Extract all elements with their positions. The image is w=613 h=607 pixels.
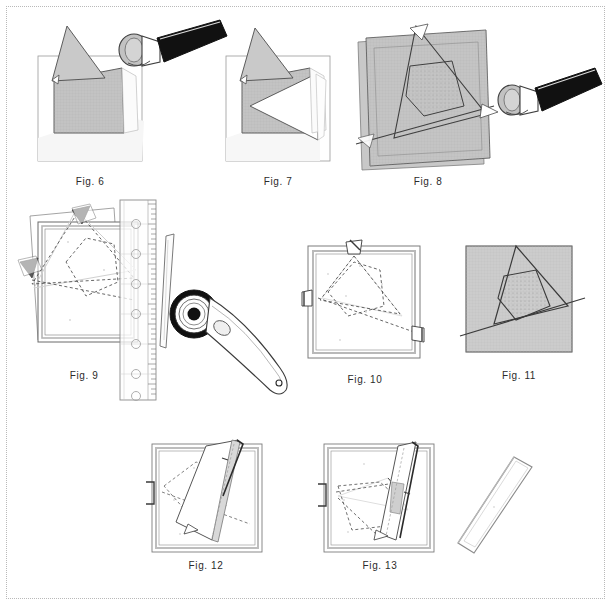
figure-fig-9: Fig. 9 <box>14 200 304 400</box>
fold-edge <box>122 68 138 133</box>
figure-fig-11: Fig. 11 <box>460 240 585 365</box>
figure-fig-13: Fig. 13 <box>312 438 462 556</box>
acrylic-ruler <box>120 200 156 401</box>
mat-dot <box>67 241 69 243</box>
fig-8-illustration <box>352 18 602 173</box>
mat-dot <box>363 463 365 465</box>
figure-page: Fig. 6 Fig. 7 <box>0 0 613 607</box>
fig-12-illustration <box>140 438 290 556</box>
mat-dot <box>173 499 175 501</box>
mat-dot <box>339 339 341 341</box>
handle-hole <box>276 380 282 386</box>
figure-fabric-strip <box>450 445 570 565</box>
cutter-hub <box>125 38 143 62</box>
rotary-cutter <box>119 34 160 66</box>
mat-dot <box>179 533 181 535</box>
cutter-hub <box>504 89 520 111</box>
fig-10-illustration <box>298 240 438 370</box>
fabric-frame <box>308 246 420 358</box>
figure-caption: Fig. 12 <box>158 560 254 571</box>
fig-7-illustration <box>212 28 344 173</box>
figure-fig-12: Fig. 12 <box>140 438 290 556</box>
mat-dot <box>327 273 329 275</box>
triangle-flap <box>240 28 293 81</box>
mat-dot <box>193 467 195 469</box>
figure-fig-8: Fig. 8 <box>352 18 602 173</box>
cutter-handle <box>206 298 287 394</box>
mat-dot <box>493 506 495 508</box>
rotary-cutter <box>498 85 538 115</box>
figure-caption: Fig. 11 <box>476 370 562 381</box>
mat-dot <box>103 269 105 271</box>
mat-dot <box>347 531 349 533</box>
blade-center-hub <box>188 308 201 321</box>
pin-top <box>346 240 362 254</box>
cutter-handle <box>535 68 602 111</box>
triangle-flap <box>52 26 105 81</box>
mat-dot <box>359 265 361 267</box>
cutter-blade <box>160 234 174 348</box>
figure-caption: Fig. 13 <box>332 560 428 571</box>
figure-caption: Fig. 6 <box>24 176 156 187</box>
blade-body <box>160 234 174 348</box>
mat-dot <box>365 311 367 313</box>
figure-caption: Fig. 8 <box>358 176 498 187</box>
figure-caption: Fig. 10 <box>322 374 408 385</box>
flap-edge <box>316 74 326 140</box>
figure-caption: Fig. 7 <box>212 176 344 187</box>
figure-fig-10: Fig. 10 <box>298 240 438 370</box>
mat-dot <box>345 295 347 297</box>
mat-dot <box>381 283 383 285</box>
mat-dot <box>69 319 71 321</box>
handle-body <box>535 68 602 111</box>
figure-caption: Fig. 9 <box>54 370 114 381</box>
rotary-cutter <box>170 290 287 394</box>
fig-11-illustration <box>460 240 585 365</box>
strip-illustration <box>450 445 570 565</box>
figure-fig-7: Fig. 7 <box>212 28 344 173</box>
mat-dot <box>343 499 345 501</box>
fig-13-illustration <box>312 438 462 556</box>
fabric-strip-inner <box>464 461 528 547</box>
